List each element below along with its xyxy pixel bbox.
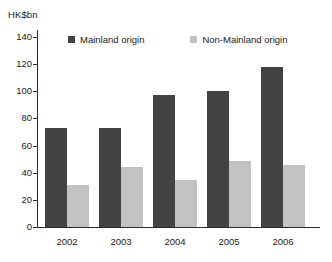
plot-area (37, 30, 320, 228)
x-axis-tick-label-2005: 2005 (207, 236, 251, 247)
bar-2005-series-2 (229, 161, 251, 228)
bar-2003-series-2 (121, 167, 143, 227)
x-axis-tick-label-2006: 2006 (261, 236, 305, 247)
bar-group-2002 (45, 30, 89, 227)
bar-2003-series-1 (99, 128, 121, 227)
x-axis-tick-label-2003: 2003 (99, 236, 143, 247)
bar-2005-series-1 (207, 91, 229, 227)
y-axis-tick-label: 40 (0, 167, 32, 178)
y-axis-tick-label: 0 (0, 221, 32, 232)
bar-2002-series-2 (67, 185, 89, 227)
bar-2004-series-1 (153, 95, 175, 227)
bar-chart-figure: HK$bn Mainland origin Non-Mainland origi… (0, 0, 332, 262)
y-axis-tick-label: 100 (0, 85, 32, 96)
y-axis-tick-label: 20 (0, 194, 32, 205)
bar-2006-series-2 (283, 165, 305, 227)
bar-2004-series-2 (175, 180, 197, 228)
bar-group-2004 (153, 30, 197, 227)
bar-group-2005 (207, 30, 251, 227)
x-axis-tick-label-2002: 2002 (45, 236, 89, 247)
y-axis-tick-label: 140 (0, 31, 32, 42)
x-axis-tick-label-2004: 2004 (153, 236, 197, 247)
y-axis-line (37, 30, 38, 228)
bar-group-2006 (261, 30, 305, 227)
bar-2006-series-1 (261, 67, 283, 227)
y-axis-tick-label: 120 (0, 58, 32, 69)
bar-group-2003 (99, 30, 143, 227)
y-axis-tick-label: 80 (0, 112, 32, 123)
bar-2002-series-1 (45, 128, 67, 227)
y-axis-tick-label: 60 (0, 140, 32, 151)
x-axis-line (37, 227, 320, 228)
